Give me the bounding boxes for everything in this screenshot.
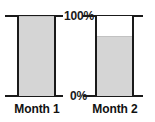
bar-month-1 bbox=[17, 15, 56, 97]
bar-fill-month-1 bbox=[19, 16, 54, 96]
axis-tick-label-0-percent: 0% bbox=[70, 90, 87, 102]
category-label-month-1: Month 1 bbox=[4, 103, 70, 115]
bar-outline-month-2 bbox=[95, 16, 134, 96]
bar-month-2 bbox=[95, 15, 134, 97]
bar-chart: 100% 0% Month 1 Month 2 bbox=[0, 0, 155, 122]
category-label-month-2: Month 2 bbox=[82, 103, 148, 115]
axis-tick-label-100-percent: 100% bbox=[64, 10, 94, 22]
bar-outline-month-1 bbox=[17, 16, 56, 96]
bar-fill-month-2 bbox=[97, 36, 132, 96]
